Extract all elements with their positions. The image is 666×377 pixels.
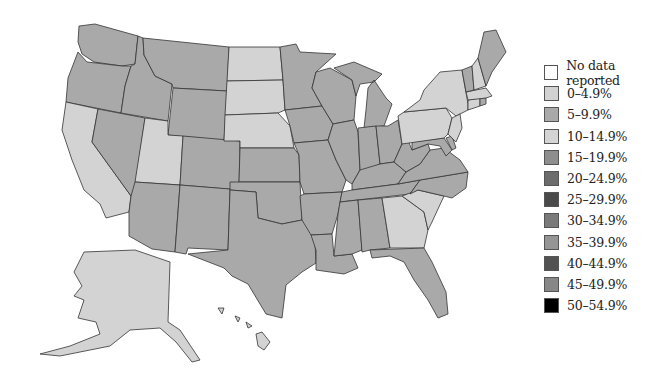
map-legend: No data reported 0–4.9% 5–9.9% 10–14.9% … bbox=[544, 62, 666, 316]
legend-label: 40–44.9% bbox=[567, 256, 627, 271]
legend-label: 45–49.9% bbox=[567, 277, 627, 292]
legend-label: 0–4.9% bbox=[567, 86, 612, 101]
state-HI[interactable] bbox=[218, 308, 270, 350]
legend-swatch bbox=[544, 192, 559, 207]
legend-item: 5–9.9% bbox=[544, 104, 666, 125]
state-ND[interactable] bbox=[227, 47, 283, 81]
legend-label: 20–24.9% bbox=[567, 171, 627, 186]
state-FL[interactable] bbox=[370, 248, 448, 318]
legend-label: 10–14.9% bbox=[567, 129, 627, 144]
legend-swatch bbox=[544, 129, 559, 144]
legend-swatch bbox=[544, 171, 559, 186]
state-RI[interactable] bbox=[480, 98, 486, 106]
legend-item: 25–29.9% bbox=[544, 189, 666, 210]
legend-swatch bbox=[544, 298, 559, 313]
state-KS[interactable] bbox=[239, 148, 300, 182]
legend-label: 30–34.9% bbox=[567, 213, 627, 228]
legend-item: 40–44.9% bbox=[544, 253, 666, 274]
legend-item: 50–54.9% bbox=[544, 295, 666, 316]
legend-item: 45–49.9% bbox=[544, 274, 666, 295]
legend-swatch bbox=[544, 213, 559, 228]
legend-item: 35–39.9% bbox=[544, 232, 666, 253]
legend-swatch bbox=[544, 277, 559, 292]
legend-item: 30–34.9% bbox=[544, 210, 666, 231]
state-AK[interactable] bbox=[40, 250, 200, 362]
state-WY[interactable] bbox=[168, 88, 227, 141]
legend-item: 20–24.9% bbox=[544, 168, 666, 189]
legend-label: No data reported bbox=[566, 58, 666, 88]
legend-label: 5–9.9% bbox=[567, 107, 612, 122]
legend-swatch bbox=[544, 107, 559, 122]
legend-label: 15–19.9% bbox=[567, 150, 627, 165]
state-AZ[interactable] bbox=[129, 182, 180, 252]
legend-label: 50–54.9% bbox=[567, 298, 627, 313]
legend-label: 25–29.9% bbox=[567, 192, 627, 207]
legend-item: 15–19.9% bbox=[544, 147, 666, 168]
legend-label: 35–39.9% bbox=[567, 235, 627, 250]
legend-swatch bbox=[544, 150, 559, 165]
legend-swatch bbox=[544, 86, 559, 101]
state-NY[interactable] bbox=[404, 70, 468, 116]
legend-item: 10–14.9% bbox=[544, 126, 666, 147]
legend-swatch bbox=[544, 65, 558, 80]
legend-swatch bbox=[544, 235, 559, 250]
state-NM[interactable] bbox=[175, 185, 230, 254]
legend-item: No data reported bbox=[544, 62, 666, 83]
state-SD[interactable] bbox=[225, 80, 285, 115]
state-WA[interactable] bbox=[78, 24, 138, 66]
legend-swatch bbox=[544, 256, 559, 271]
